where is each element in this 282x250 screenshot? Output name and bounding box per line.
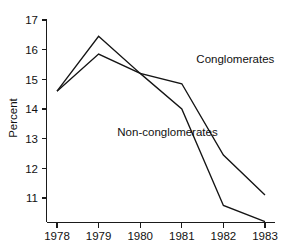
y-tick-label-12: 12 [25,163,38,175]
y-tick-label-11: 11 [26,192,38,204]
y-axis-title: Percent [7,97,19,137]
y-tick-label-17: 17 [25,14,38,26]
y-tick-label-16: 16 [25,44,38,56]
y-tick-label-13: 13 [25,133,38,145]
series-label-conglomerates: Conglomerates [196,53,274,65]
chart-canvas: 17 16 15 14 13 12 11 1978 1979 1980 1981… [0,0,282,250]
x-tick-label-1980: 1980 [127,230,153,242]
x-tick-label-1983: 1983 [252,230,278,242]
x-tick-label-1982: 1982 [211,230,237,242]
x-tick-label-1979: 1979 [86,230,112,242]
y-tick-group [42,20,47,198]
y-tick-label-14: 14 [25,103,38,115]
y-tick-label-15: 15 [25,74,38,86]
x-tick-label-1981: 1981 [169,230,195,242]
line-chart: 17 16 15 14 13 12 11 1978 1979 1980 1981… [0,0,282,250]
x-tick-group [57,223,265,228]
series-label-non-conglomerates: Non-conglomerates [117,126,218,138]
x-tick-label-1978: 1978 [44,230,70,242]
